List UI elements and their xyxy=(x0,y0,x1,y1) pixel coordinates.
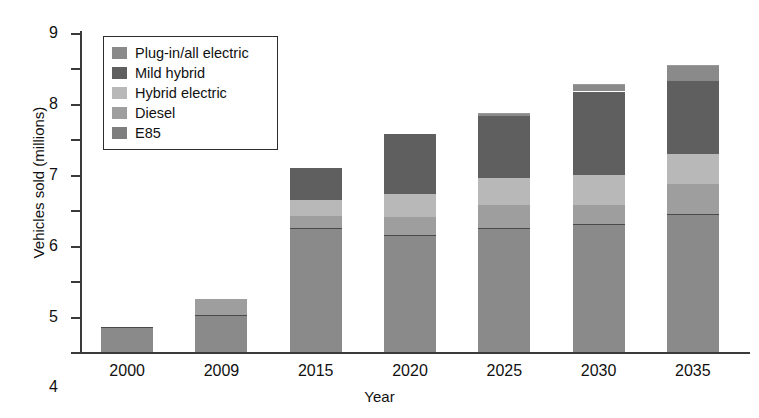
y-tick-mark: 3 xyxy=(71,246,80,248)
bar-segment[interactable] xyxy=(384,194,436,217)
y-tick-label: 7 xyxy=(49,166,58,182)
stacked-bar[interactable] xyxy=(384,134,436,352)
bar-segment[interactable] xyxy=(290,228,342,352)
bar-segment[interactable] xyxy=(478,113,530,117)
legend-item-label: Plug-in/all electric xyxy=(135,46,249,61)
bar-segment[interactable] xyxy=(290,200,342,216)
bar-segment[interactable] xyxy=(573,92,625,175)
bar-segment[interactable] xyxy=(195,299,247,315)
legend-item[interactable]: E85 xyxy=(112,123,269,143)
bar-segment[interactable] xyxy=(573,84,625,91)
x-tick-label: 2020 xyxy=(370,362,450,380)
bar-segment[interactable] xyxy=(384,235,436,352)
bar-segment[interactable] xyxy=(195,315,247,352)
bar-segment[interactable] xyxy=(290,216,342,228)
stacked-bar[interactable] xyxy=(290,168,342,352)
bar-segment[interactable] xyxy=(478,178,530,205)
legend-swatch-icon xyxy=(112,127,127,139)
stacked-bar[interactable] xyxy=(573,91,625,352)
y-tick-mark: 8 xyxy=(71,68,80,70)
y-tick-mark: 7 xyxy=(71,104,80,106)
bar-segment[interactable] xyxy=(573,205,625,224)
legend-item[interactable]: Plug-in/all electric xyxy=(112,43,269,63)
legend-item-label: Mild hybrid xyxy=(135,66,205,81)
bar-group xyxy=(573,33,625,352)
bar-segment[interactable] xyxy=(101,327,153,352)
chart-legend: Plug-in/all electricMild hybridHybrid el… xyxy=(103,36,278,150)
bar-segment[interactable] xyxy=(573,175,625,205)
bar-segment[interactable] xyxy=(667,65,719,81)
bar-group xyxy=(478,33,530,352)
bar-group xyxy=(667,33,719,352)
stacked-bar[interactable] xyxy=(478,113,530,352)
y-tick-mark: 5 xyxy=(71,175,80,177)
stacked-bar[interactable] xyxy=(101,327,153,352)
x-tick-label: 2015 xyxy=(276,362,356,380)
legend-swatch-icon xyxy=(112,107,127,119)
y-tick-label: 8 xyxy=(49,96,58,112)
bar-segment[interactable] xyxy=(573,224,625,352)
stacked-bar[interactable] xyxy=(667,65,719,352)
bar-group xyxy=(384,33,436,352)
legend-item-label: E85 xyxy=(135,126,161,141)
y-tick-mark: 2 xyxy=(71,281,80,283)
y-axis-title: Vehicles sold (millions) xyxy=(30,53,47,313)
legend-item[interactable]: Mild hybrid xyxy=(112,63,269,83)
x-axis-line xyxy=(80,352,750,354)
bar-segment[interactable] xyxy=(478,116,530,178)
legend-swatch-icon xyxy=(112,67,127,79)
bar-segment[interactable] xyxy=(667,184,719,214)
bar-segment[interactable] xyxy=(667,214,719,352)
bar-segment[interactable] xyxy=(478,205,530,228)
y-tick-mark: 4 xyxy=(71,210,80,212)
x-axis-title: Year xyxy=(0,388,759,405)
y-tick-label: 9 xyxy=(49,25,58,41)
legend-item-label: Hybrid electric xyxy=(135,86,227,101)
x-tick-label: 2009 xyxy=(181,362,261,380)
x-tick-label: 2035 xyxy=(653,362,733,380)
y-tick-mark: 0 xyxy=(71,352,80,354)
bar-segment[interactable] xyxy=(478,228,530,352)
bar-segment[interactable] xyxy=(384,217,436,235)
bar-segment[interactable] xyxy=(667,154,719,184)
x-tick-label: 2025 xyxy=(464,362,544,380)
y-tick-mark: 6 xyxy=(71,139,80,141)
bar-segment[interactable] xyxy=(384,134,436,194)
legend-item[interactable]: Diesel xyxy=(112,103,269,123)
y-tick-mark: 9 xyxy=(71,33,80,35)
y-tick-label: 6 xyxy=(49,237,58,253)
legend-swatch-icon xyxy=(112,47,127,59)
y-tick-mark: 1 xyxy=(71,317,80,319)
legend-item[interactable]: Hybrid electric xyxy=(112,83,269,103)
x-tick-label: 2000 xyxy=(87,362,167,380)
legend-swatch-icon xyxy=(112,87,127,99)
stacked-bar-chart: Vehicles sold (millions) 0123456789 Year… xyxy=(0,0,759,418)
y-tick-label: 5 xyxy=(49,308,58,324)
bar-segment[interactable] xyxy=(290,168,342,200)
legend-item-label: Diesel xyxy=(135,106,175,121)
stacked-bar[interactable] xyxy=(195,299,247,352)
x-tick-label: 2030 xyxy=(559,362,639,380)
bar-group xyxy=(290,33,342,352)
bar-segment[interactable] xyxy=(667,81,719,154)
